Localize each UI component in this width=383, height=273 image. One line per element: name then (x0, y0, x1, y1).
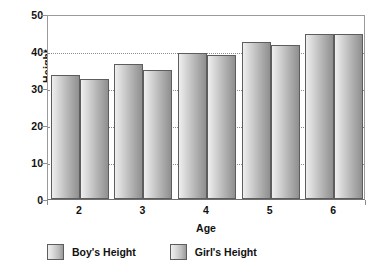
y-axis-tick-mark (41, 52, 47, 53)
x-axis-tick-label: 5 (250, 204, 290, 216)
x-axis-tick-label: 3 (122, 204, 162, 216)
bar-chart: Height 01020304050 23456 Age Boy's Heigh… (0, 0, 383, 273)
bar-group (114, 16, 172, 199)
bar-boy-age-5 (242, 42, 271, 199)
y-axis-tick-mark (41, 126, 47, 127)
legend-item[interactable]: Girl's Height (170, 244, 257, 260)
y-axis-tick-label: 0 (15, 194, 43, 206)
bar-group (242, 16, 300, 199)
bar-boy-age-2 (51, 75, 80, 199)
y-axis-tick-label: 50 (15, 9, 43, 21)
y-axis-tick-label: 40 (15, 46, 43, 58)
x-axis-tick-label: 6 (313, 204, 353, 216)
y-axis-tick-mark (41, 89, 47, 90)
x-axis-tick-label: 2 (59, 204, 99, 216)
x-axis-tick-mark (365, 200, 366, 205)
y-axis-tick-mark (41, 163, 47, 164)
bar-boy-age-6 (305, 34, 334, 199)
y-axis-tick-mark (41, 15, 47, 16)
x-axis-tick-mark (47, 200, 48, 205)
bar-group (178, 16, 236, 199)
bar-girl-age-5 (271, 45, 300, 199)
plot-area (47, 15, 365, 200)
legend-label: Girl's Height (195, 246, 257, 258)
bar-boy-age-3 (114, 64, 143, 199)
bar-boy-age-4 (178, 53, 207, 199)
bar-girl-age-3 (143, 70, 172, 200)
bar-girl-age-6 (334, 34, 363, 199)
legend-label: Boy's Height (72, 246, 136, 258)
bar-group (51, 16, 109, 199)
y-axis-tick-label: 10 (15, 157, 43, 169)
y-axis-tick-label: 30 (15, 83, 43, 95)
x-axis-tick-label: 4 (186, 204, 226, 216)
chart-legend: Boy's HeightGirl's Height (47, 244, 365, 260)
legend-swatch-icon (47, 244, 64, 260)
bar-girl-age-2 (80, 79, 109, 199)
bar-group (305, 16, 363, 199)
x-axis-title: Age (47, 222, 365, 234)
legend-item[interactable]: Boy's Height (47, 244, 136, 260)
bar-girl-age-4 (207, 55, 236, 199)
legend-swatch-icon (170, 244, 187, 260)
y-axis-tick-label: 20 (15, 120, 43, 132)
